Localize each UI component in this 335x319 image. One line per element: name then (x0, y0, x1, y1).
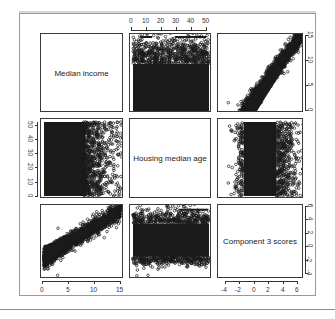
tick-label: 40 (27, 135, 34, 142)
axis-line (305, 206, 306, 273)
tick-label: 15 (116, 286, 123, 293)
tick (35, 196, 38, 197)
scatter-age-vs-comp3 (129, 204, 211, 278)
axis-line (42, 281, 120, 282)
tick-label: 30 (172, 17, 179, 24)
tick (35, 153, 38, 154)
tick (225, 281, 226, 284)
tick-label: 30 (27, 149, 34, 156)
tick-label: 0 (252, 286, 256, 293)
tick-label: 10 (27, 178, 34, 185)
tick-label: 50 (202, 17, 209, 24)
tick-label: 10 (307, 56, 314, 63)
tick-label: 0 (27, 194, 34, 198)
scatter-canvas (130, 205, 211, 278)
tick-label: 2 (266, 286, 270, 293)
tick-label: -2 (235, 286, 241, 293)
scatter-income-vs-comp3 (40, 204, 123, 278)
scatter-canvas (218, 34, 303, 112)
scatter-comp3-vs-income (217, 33, 303, 112)
tick-label: 0 (129, 17, 133, 24)
scatter-canvas (130, 34, 211, 112)
axis-line (37, 122, 38, 196)
panel-label-component-3-scores: Component 3 scores (217, 204, 303, 278)
scatter-age-vs-income (129, 33, 211, 112)
tick-label: 40 (187, 17, 194, 24)
tick (191, 27, 192, 30)
tick-label: -2 (306, 257, 313, 263)
tick-label: 15 (307, 31, 314, 38)
panel-label-median-income: Median income (40, 33, 123, 112)
scatter-canvas (41, 119, 123, 198)
variable-label-median-income: Median income (41, 68, 122, 77)
axis-line (305, 35, 306, 111)
tick-label: 4 (281, 286, 285, 293)
variable-label-housing-median-age: Housing median age (130, 154, 210, 163)
scatter-canvas (218, 119, 303, 198)
variable-label-component-3-scores: Component 3 scores (218, 237, 302, 246)
tick (297, 281, 298, 284)
tick (131, 27, 132, 30)
tick-label: 10 (90, 286, 97, 293)
tick (206, 27, 207, 30)
tick-label: 50 (27, 121, 34, 128)
page-divider (0, 309, 335, 310)
tick-label: 6 (295, 286, 299, 293)
axis-line (131, 30, 207, 31)
tick-label: -4 (221, 286, 227, 293)
tick-label: 20 (157, 17, 164, 24)
tick (146, 27, 147, 30)
tick-label: 20 (27, 163, 34, 170)
tick (120, 281, 121, 284)
tick-label: 5 (307, 83, 314, 87)
tick-label: 4 (307, 217, 314, 221)
tick (35, 139, 38, 140)
tick-label: 6 (307, 204, 314, 208)
tick (254, 281, 255, 284)
tick-label: 0 (307, 244, 314, 248)
tick (94, 281, 95, 284)
tick (176, 27, 177, 30)
tick (35, 125, 38, 126)
tick (268, 281, 269, 284)
axis-line (225, 281, 298, 282)
tick (35, 167, 38, 168)
scatter-comp3-vs-age (217, 118, 303, 198)
tick-label: 0 (307, 108, 314, 112)
tick-label: 2 (307, 231, 314, 235)
scatter-canvas (41, 205, 123, 278)
tick-label: 5 (66, 286, 70, 293)
tick (42, 281, 43, 284)
tick (283, 281, 284, 284)
tick (161, 27, 162, 30)
tick-label: 10 (142, 17, 149, 24)
scatter-income-vs-age (40, 118, 123, 198)
tick-label: 0 (40, 286, 44, 293)
tick (35, 182, 38, 183)
tick (68, 281, 69, 284)
panel-label-housing-median-age: Housing median age (129, 118, 211, 198)
tick (239, 281, 240, 284)
tick-label: -4 (306, 270, 313, 276)
